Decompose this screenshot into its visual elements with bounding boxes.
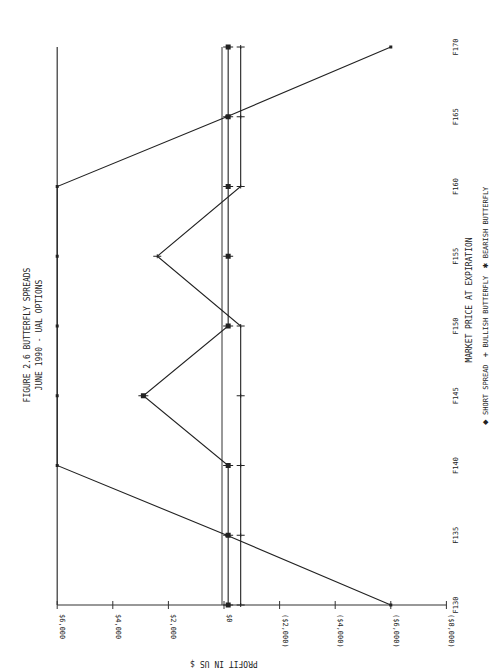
- chart-svg: FIGURE 2.6 BUTTERFLY SPREADS JUNE 1990 -…: [0, 0, 504, 671]
- legend: ◆SHORT SPREAD+BULLISH BUTTERFLY✱BEARISH …: [480, 186, 490, 425]
- profit-tick-label: $0: [225, 614, 233, 622]
- price-tick-label: F130: [452, 597, 460, 614]
- price-tick-label: F145: [452, 387, 460, 404]
- chart-title-group: FIGURE 2.6 BUTTERFLY SPREADS JUNE 1990 -…: [23, 267, 44, 402]
- diamond-marker-icon: [56, 185, 59, 188]
- profit-tick-label: ($6,000): [392, 614, 400, 648]
- diamond-marker-icon: [389, 604, 392, 607]
- price-tick-label: F170: [452, 39, 460, 56]
- price-tick-label: F155: [452, 248, 460, 265]
- profit-tick-label: ($8,000): [447, 614, 455, 648]
- chart-figure: FIGURE 2.6 BUTTERFLY SPREADS JUNE 1990 -…: [0, 0, 504, 671]
- plot-area: [56, 45, 393, 608]
- legend-symbol-icon: ✱: [480, 262, 490, 268]
- legend-label: BULLISH BUTTERFLY: [482, 275, 490, 347]
- price-tick-label: F140: [452, 457, 460, 474]
- diamond-marker-icon: [56, 464, 59, 467]
- profit-tick-label: $2,000: [169, 614, 177, 639]
- legend-label: SHORT SPREAD: [482, 364, 490, 415]
- legend-label: BEARISH BUTTERFLY: [482, 186, 490, 258]
- profit-tick-label: $6,000: [58, 614, 66, 639]
- axes: $6,000$4,000$2,000$0($2,000)($4,000)($6,…: [57, 39, 460, 648]
- series-line-bearish-butterfly: [143, 47, 228, 605]
- profit-tick-label: $4,000: [114, 614, 122, 639]
- diamond-marker-icon: [56, 394, 59, 397]
- price-tick-label: F165: [452, 108, 460, 125]
- y-axis-title: PROFIT IN US $: [190, 659, 258, 668]
- diamond-marker-icon: [389, 46, 392, 49]
- price-tick-label: F150: [452, 318, 460, 335]
- price-tick-label: F160: [452, 178, 460, 195]
- legend-symbol-icon: +: [480, 351, 490, 357]
- diamond-marker-icon: [56, 255, 59, 258]
- profit-tick-label: ($2,000): [281, 614, 289, 648]
- x-axis-title: MARKET PRICE AT EXPIRATION: [465, 237, 474, 362]
- diamond-marker-icon: [56, 325, 59, 328]
- chart-subtitle: JUNE 1990 - UAL OPTIONS: [35, 279, 44, 390]
- price-tick-label: F135: [452, 527, 460, 544]
- chart-title: FIGURE 2.6 BUTTERFLY SPREADS: [23, 267, 32, 402]
- legend-symbol-icon: ◆: [480, 419, 490, 425]
- profit-tick-label: ($4,000): [336, 614, 344, 648]
